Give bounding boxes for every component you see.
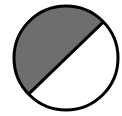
fraction-circle-diagram [0, 0, 122, 116]
